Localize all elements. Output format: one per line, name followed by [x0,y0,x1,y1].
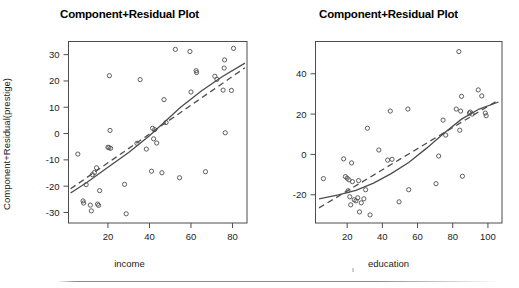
data-point [480,94,484,98]
data-point [407,188,411,192]
x-tick-label: 100 [480,231,496,242]
data-point [441,118,445,122]
data-point [152,137,156,141]
data-point [189,90,193,94]
data-point [203,170,207,174]
data-point [160,171,164,175]
data-point [107,74,111,78]
data-point [223,131,227,135]
data-point [406,107,410,111]
y-tick-label: 10 [49,102,60,113]
data-layer [319,49,498,217]
data-point [229,88,233,92]
x-tick-label: 20 [103,231,114,242]
data-layer [71,46,245,216]
x-tick-label: 80 [447,231,458,242]
y-tick-label: 30 [49,49,60,60]
data-point [349,203,353,207]
data-point [348,195,352,199]
data-point [88,203,92,207]
y-tick-label: 20 [49,75,60,86]
plot-panel-income: Component+Residual Plot income Component… [0,0,259,288]
plot-panel-education: Component+Residual Plot education Compon… [259,0,518,288]
data-point [397,200,401,204]
data-point [350,180,354,184]
stray-mark [352,268,354,272]
data-point [390,157,394,161]
data-point [364,188,368,192]
data-point [388,109,392,113]
data-point [457,49,461,53]
data-point [98,189,102,193]
data-point [231,46,235,50]
data-point [221,88,225,92]
data-point [138,78,142,82]
data-point [122,182,126,186]
data-point [458,128,462,132]
data-point [362,197,366,201]
data-point [437,154,441,158]
data-point [459,94,463,98]
x-tick-label: 40 [144,231,155,242]
data-point [454,107,458,111]
data-point [177,176,181,180]
data-point [368,213,372,217]
data-point [484,114,488,118]
data-point [76,152,80,156]
data-point [359,201,363,205]
data-point [173,47,177,51]
data-point [222,58,226,62]
data-point [357,210,361,214]
data-point [144,147,148,151]
data-point [483,111,487,115]
x-tick-label: 60 [412,231,423,242]
y-tick-label: 40 [296,68,307,79]
plot-area-income: 20406080-30-20-100102030 [0,0,259,288]
data-point [357,179,361,183]
data-point [222,66,226,70]
x-tick-label: 40 [377,231,388,242]
footer-divider [57,281,500,282]
plot-area-education: 20406080100-2002040 [259,0,518,288]
data-point [386,158,390,162]
data-point [162,98,166,102]
data-point [434,182,438,186]
y-tick-label: -10 [46,154,60,165]
data-point [124,212,128,216]
data-point [108,128,112,132]
data-point [149,169,153,173]
data-point [89,209,93,213]
data-point [459,109,463,113]
data-point [349,161,353,165]
y-tick-label: 0 [301,149,306,160]
data-point [460,174,464,178]
data-point [342,157,346,161]
y-tick-label: -20 [46,181,60,192]
y-tick-label: 0 [54,128,59,139]
data-point [365,126,369,130]
data-point [476,88,480,92]
figure-canvas: Component+Residual Plot income Component… [0,0,519,288]
data-point [188,49,192,53]
data-point [321,177,325,181]
data-point [377,148,381,152]
x-tick-label: 80 [227,231,238,242]
x-tick-label: 20 [342,231,353,242]
x-tick-label: 60 [186,231,197,242]
y-tick-label: -30 [46,207,60,218]
y-tick-label: 20 [296,109,307,120]
data-point [155,141,159,145]
y-tick-label: -20 [293,189,307,200]
